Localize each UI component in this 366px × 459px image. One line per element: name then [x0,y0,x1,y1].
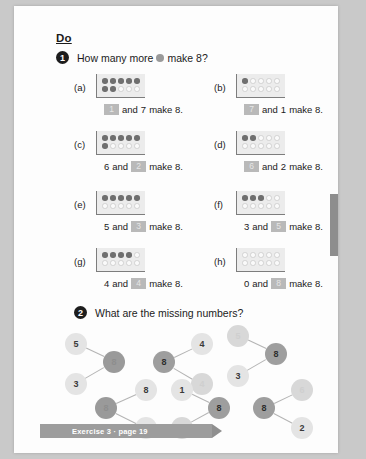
sentence-tail: make 8. [149,221,183,232]
filled-dot-icon [102,135,108,141]
empty-dot-icon [118,203,124,209]
question-1-text-after: make 8? [167,52,207,64]
conjunction-and: and [112,278,128,289]
filled-dot-icon [118,78,124,84]
empty-dot-icon [266,135,272,141]
filled-dot-icon [242,78,248,84]
empty-dot-icon [250,260,256,266]
empty-dot-icon [102,260,108,266]
filled-dot-icon [250,135,256,141]
empty-dot-icon [118,143,124,149]
part-label: (d) [214,139,226,150]
conjunction-and: and [112,161,128,172]
ten-frame [236,131,285,155]
empty-dot-icon [250,143,256,149]
empty-dot-icon [126,260,132,266]
addend-second: 7 [141,104,146,115]
empty-dot-icon [102,203,108,209]
footer-arrow-icon [212,424,222,438]
bond-connector [273,413,292,424]
conjunction-and: and [262,104,278,115]
empty-dot-icon [250,78,256,84]
sentence-tail: make 8. [149,161,183,172]
answer-blank-second[interactable]: 2 [131,161,146,172]
answer-blank-first[interactable]: 1 [104,104,119,115]
filled-dot-icon [110,252,116,258]
filled-dot-icon [242,135,248,141]
empty-dot-icon [258,86,264,92]
empty-dot-icon [134,86,140,92]
ten-frame-row [242,252,280,258]
answer-blank-second[interactable]: 3 [131,221,146,232]
ten-frame-row [242,143,280,149]
empty-dot-icon [266,260,272,266]
sentence-tail: make 8. [289,161,323,172]
filled-dot-icon [250,195,256,201]
number-sentence: 6and2make 8. [244,161,323,172]
number-sentence: 6and2make 8. [104,161,183,172]
empty-dot-icon [126,143,132,149]
addend-second: 1 [281,104,286,115]
footer-text: Exercise 3 · page 19 [72,427,148,436]
addend-second: 2 [281,161,286,172]
ten-frame [96,248,145,272]
ten-frame-row [242,86,280,92]
empty-dot-icon [110,143,116,149]
worksheet-page: Do 1 How many more make 8? (a)1and7make … [14,6,338,453]
empty-dot-icon [242,143,248,149]
answer-blank-second[interactable]: 5 [271,221,286,232]
ten-frame-row [242,260,280,266]
empty-dot-icon [250,252,256,258]
part-label: (f) [214,199,223,210]
answer-blank-first[interactable]: 7 [244,104,259,115]
number-sentence: 4and4make 8. [104,278,183,289]
empty-dot-icon [274,203,280,209]
sentence-tail: make 8. [289,278,323,289]
sentence-tail: make 8. [289,221,323,232]
empty-dot-icon [126,86,132,92]
sentence-tail: make 8. [149,104,183,115]
ten-frame [236,248,285,272]
empty-dot-icon [266,78,272,84]
addend-first: 3 [244,221,249,232]
empty-dot-icon [134,203,140,209]
empty-dot-icon [266,252,272,258]
empty-dot-icon [274,135,280,141]
filled-dot-icon [242,195,248,201]
answer-blank-second[interactable]: 8 [271,278,286,289]
empty-dot-icon [274,195,280,201]
ten-frame [236,74,285,98]
answer-blank-first[interactable]: 6 [244,161,259,172]
empty-dot-icon [258,78,264,84]
sentence-tail: make 8. [289,104,323,115]
addend-first: 0 [244,278,249,289]
conjunction-and: and [262,161,278,172]
worksheet-content: Do 1 How many more make 8? (a)1and7make … [14,6,338,453]
addend-first: 5 [104,221,109,232]
filled-dot-icon [102,143,108,149]
bond-part-2: 2 [291,417,313,439]
ten-frame-row [102,86,140,92]
filled-dot-icon [102,195,108,201]
answer-blank-second[interactable]: 4 [131,278,146,289]
ten-frame-row [102,143,140,149]
bond-part-1[interactable]: 6 [291,379,313,401]
ten-frame-row [102,78,140,84]
empty-dot-icon [274,260,280,266]
empty-dot-icon [274,78,280,84]
footer-banner: Exercise 3 · page 19 [40,424,212,438]
bond-connector [274,395,293,404]
filled-dot-icon [102,86,108,92]
empty-dot-icon [274,86,280,92]
ten-frame-row [242,135,280,141]
number-bond-diagrams: 853880844817853862 [14,306,338,426]
empty-dot-icon [126,203,132,209]
empty-dot-icon [134,252,140,258]
filled-dot-icon [258,195,264,201]
number-sentence: 0and8make 8. [244,278,323,289]
filled-dot-icon [110,86,116,92]
empty-dot-icon [266,86,272,92]
part-label: (a) [74,82,86,93]
addend-first: 6 [104,161,109,172]
ten-frame-row [242,195,280,201]
